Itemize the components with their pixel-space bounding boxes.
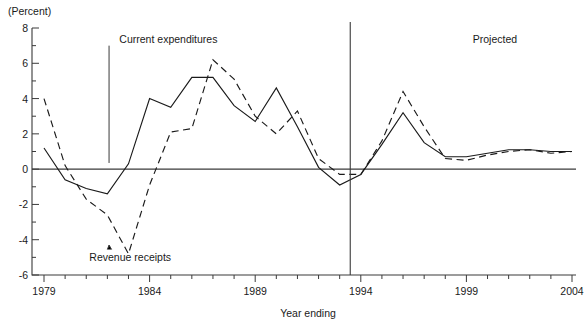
annotation-group: Current expendituresRevenue receiptsProj… [89,22,517,275]
x-axis-tick-label: 1989 [244,285,268,297]
y-axis-unit-label: (Percent) [8,5,51,17]
axis-spine [32,28,576,275]
x-axis-tick-label: 1999 [455,285,479,297]
series-group [44,60,572,254]
annotation-projected: Projected [473,33,518,45]
y-axis-tick-group: 86420-2-4-6 [19,22,39,281]
x-axis-tick-label: 1994 [349,285,373,297]
x-axis-tick-label: 2004 [560,285,584,297]
chart-container: (Percent) 86420-2-4-6 197919841989199419… [0,0,588,325]
series-line-current-expenditures [44,77,572,193]
y-axis-tick-label: 8 [22,22,28,34]
series-line-revenue-receipts [44,60,572,254]
leader-arrow-revenue-receipts [107,245,111,249]
y-axis-tick-label: 2 [22,128,28,140]
x-axis-title: Year ending [280,307,336,319]
x-axis-tick-label: 1984 [138,285,162,297]
annotation-revenue-receipts: Revenue receipts [89,251,171,263]
x-axis-tick-group: 197919841989199419992004 [32,275,584,297]
y-axis-tick-label: -4 [19,234,28,246]
axis-lines-group [32,28,576,275]
y-axis-tick-label: -6 [19,269,28,281]
y-axis-tick-label: 0 [22,163,28,175]
x-axis-tick-label: 1979 [32,285,56,297]
y-axis-tick-label: 4 [22,93,28,105]
line-chart: (Percent) 86420-2-4-6 197919841989199419… [0,0,588,325]
y-axis-tick-label: -2 [19,198,28,210]
y-axis-tick-label: 6 [22,57,28,69]
annotation-current-expenditures: Current expenditures [119,33,217,45]
